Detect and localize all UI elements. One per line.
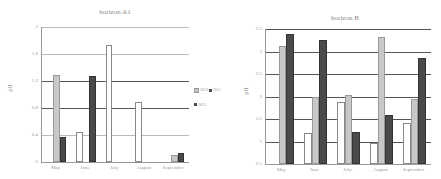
legend-label: 2013: [198, 102, 206, 107]
bar-2013-july: [352, 132, 360, 164]
bar-2011-june: [304, 133, 312, 164]
y-tick-label: 2: [246, 94, 262, 99]
x-tick-label: September: [399, 167, 429, 172]
plot-area: [265, 29, 431, 165]
bar-2012-june: [312, 97, 320, 164]
x-tick-label: June: [70, 165, 100, 170]
bar-2013-august: [385, 115, 393, 164]
gridline: [42, 108, 189, 109]
bar-2011-september: [403, 123, 411, 164]
x-tick-label: July: [333, 167, 363, 172]
x-tick-label: June: [300, 167, 330, 172]
legend-row: 2013: [194, 102, 224, 107]
bar-2011-july: [337, 102, 345, 164]
bar-2011-june: [76, 132, 82, 162]
bar-2012-september: [411, 99, 419, 164]
legend-label: 2012: [200, 87, 208, 92]
x-tick-label: May: [267, 167, 297, 172]
y-tick-label: 1.5: [246, 116, 262, 121]
bar-2013-september: [418, 58, 426, 164]
chart-title: horizon B: [310, 14, 380, 22]
bar-2011-august: [135, 102, 141, 162]
y-tick-label: 0: [22, 159, 38, 164]
x-tick-label: August: [129, 165, 159, 170]
y-tick-label: 0.5: [246, 161, 262, 166]
x-tick-label: May: [41, 165, 71, 170]
legend-label: 2011: [213, 87, 221, 92]
gridline: [266, 29, 431, 30]
gridline: [42, 81, 189, 82]
y-tick-label: 3: [246, 49, 262, 54]
plot-area: [41, 27, 189, 163]
legend-swatch-2013: [209, 89, 212, 92]
bar-2013-june: [89, 76, 95, 162]
legend-row: 2012 2011: [194, 87, 224, 93]
gridline: [42, 27, 189, 28]
bar-2013-may: [286, 34, 294, 164]
bar-2012-july: [345, 95, 353, 164]
gridline: [42, 54, 189, 55]
y-tick-label: 0.4: [22, 132, 38, 137]
bar-2012-august: [378, 37, 386, 164]
y-tick-label: 0.8: [22, 105, 38, 110]
bar-2011-july: [106, 45, 112, 162]
y-tick-label: 3.5: [246, 26, 262, 31]
y-tick-label: 1.2: [22, 78, 38, 83]
y-tick-label: 1: [246, 139, 262, 144]
legend-swatch-2012: [194, 88, 199, 93]
y-tick-label: 1.6: [22, 51, 38, 56]
y-axis-label: pH: [7, 84, 13, 91]
gridline: [42, 135, 189, 136]
chart-horizon-a: horizon A1 pH 00.40.81.21.62 MayJuneJuly…: [0, 0, 230, 179]
y-tick-label: 2: [22, 24, 38, 29]
chart-horizon-b: horizon B pH 0.511.522.533.5 MayJuneJuly…: [230, 0, 441, 179]
bar-2012-may: [279, 46, 287, 164]
x-tick-label: August: [366, 167, 396, 172]
bar-2011-august: [370, 143, 378, 164]
chart-title: horizon A1: [70, 8, 160, 16]
bar-2013-june: [319, 40, 327, 164]
x-tick-label: September: [158, 165, 188, 170]
x-tick-label: July: [100, 165, 130, 170]
bar-2013-september: [178, 153, 184, 162]
bar-2013-may: [60, 137, 66, 162]
legend: 2012 2011 2013: [194, 87, 224, 107]
y-tick-label: 2.5: [246, 71, 262, 76]
legend-swatch: [194, 103, 197, 106]
